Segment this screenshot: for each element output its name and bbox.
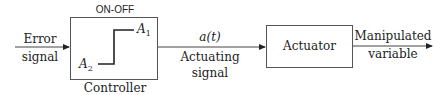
input-label-line1: Error — [18, 32, 62, 46]
output-label-line2: variable — [354, 47, 432, 61]
controller-mode: ON-OFF — [90, 3, 140, 17]
output-label-line1: Manipulated — [354, 29, 432, 43]
low-level-label: A2 — [79, 57, 93, 76]
actuating-symbol: a(t) — [190, 30, 230, 44]
actuator-label: Actuator — [267, 39, 352, 53]
actuating-label-line1: Actuating — [175, 50, 245, 64]
controller-label: Controller — [80, 81, 150, 95]
on-off-curve — [98, 30, 134, 64]
input-label-line2: signal — [18, 50, 62, 64]
actuating-label-line2: signal — [175, 66, 245, 80]
high-level-label: A1 — [137, 22, 151, 41]
